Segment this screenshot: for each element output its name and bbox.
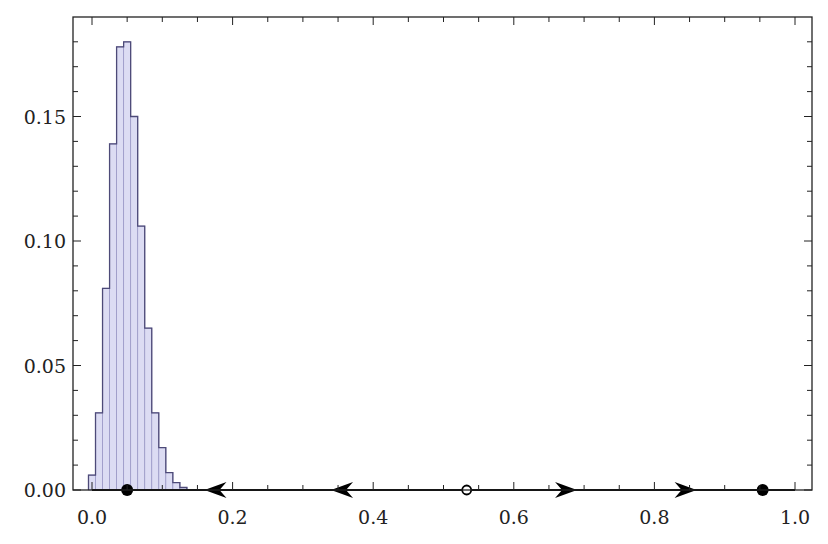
histogram-bar — [124, 42, 131, 490]
x-tick-label: 0.8 — [639, 506, 669, 528]
y-tick-label: 0.00 — [24, 479, 66, 501]
plot-frame — [73, 17, 812, 490]
y-tick-label: 0.05 — [24, 355, 66, 377]
histogram-bar — [152, 413, 159, 490]
histogram-bar — [159, 448, 166, 490]
histogram-chart: 0.00.20.40.60.81.0 0.000.050.100.15 — [0, 0, 828, 544]
histogram-bar — [145, 328, 152, 490]
histogram-bar — [96, 413, 103, 490]
histogram-bar — [173, 483, 180, 490]
x-tick-label: 0.4 — [358, 506, 388, 528]
y-tick-label: 0.15 — [24, 106, 66, 128]
x-tick-label: 1.0 — [780, 506, 810, 528]
y-tick-label: 0.10 — [24, 230, 66, 252]
x-axis-ticks: 0.00.20.40.60.81.0 — [77, 17, 810, 528]
histogram-bar — [131, 117, 138, 491]
histogram-bar — [166, 473, 173, 490]
histogram-bars — [88, 42, 186, 490]
axes-box — [73, 17, 812, 490]
histogram-bar — [110, 144, 117, 490]
x-tick-label: 0.0 — [77, 506, 107, 528]
x-tick-label: 0.2 — [217, 506, 247, 528]
histogram-bar — [103, 288, 110, 490]
x-tick-label: 0.6 — [499, 506, 529, 528]
histogram-bar — [117, 47, 124, 490]
histogram-bar — [138, 226, 145, 490]
